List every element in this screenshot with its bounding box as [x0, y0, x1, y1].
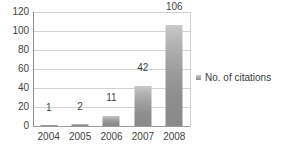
y-tick-label-60: 60: [1, 64, 29, 74]
bar-2004[interactable]: [40, 125, 57, 126]
bar-slot-2005: 2: [64, 12, 95, 126]
legend-label-no-of-citations: No. of citations: [205, 72, 271, 83]
x-tick-label-2008: 2008: [163, 131, 185, 142]
bar-slot-2006: 11: [96, 12, 127, 126]
gridline-baseline-0: [33, 126, 190, 127]
bar-slot-2007: 42: [127, 12, 158, 126]
x-tick-label-2005: 2005: [69, 131, 91, 142]
y-tick-label-40: 40: [1, 83, 29, 93]
bar-value-2008: 106: [166, 2, 183, 12]
bar-chart: 120 100 80 60 40 20 0 1 2 11 4: [0, 0, 296, 159]
bar-2006[interactable]: [103, 116, 120, 127]
bar-2008[interactable]: [166, 25, 183, 126]
y-tick-label-0: 0: [1, 121, 29, 131]
y-tick-label-80: 80: [1, 45, 29, 55]
plot-right-border: [190, 12, 191, 127]
y-tick-label-100: 100: [1, 26, 29, 36]
y-axis-tick-labels: 120 100 80 60 40 20 0: [0, 12, 29, 126]
bar-value-2007: 42: [137, 63, 148, 73]
x-tick-label-2006: 2006: [100, 131, 122, 142]
bar-2007[interactable]: [134, 86, 151, 126]
bar-value-2004: 1: [46, 103, 52, 113]
x-tick-label-2007: 2007: [132, 131, 154, 142]
bar-value-2005: 2: [77, 102, 83, 112]
y-tick-label-20: 20: [1, 102, 29, 112]
legend-swatch-icon: [196, 75, 201, 80]
bar-value-2006: 11: [106, 93, 116, 103]
bars-layer: 1 2 11 42 106: [33, 12, 190, 126]
bar-slot-2004: 1: [33, 12, 64, 126]
x-axis-tick-labels: 2004 2005 2006 2007 2008: [33, 131, 190, 145]
y-tick-label-120: 120: [1, 7, 29, 17]
legend: No. of citations: [196, 72, 271, 83]
bar-slot-2008: 106: [159, 12, 190, 126]
x-tick-label-2004: 2004: [38, 131, 60, 142]
bar-2005[interactable]: [72, 124, 89, 126]
